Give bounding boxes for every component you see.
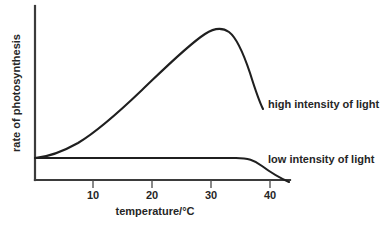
x-tick-label-40: 40 — [264, 189, 276, 201]
x-tick-label-30: 30 — [205, 189, 217, 201]
curve-low-intensity — [35, 158, 289, 182]
x-tick-label-20: 20 — [146, 189, 158, 201]
y-axis-title: rate of photosynthesis — [10, 34, 22, 152]
x-axis-title: temperature/°C — [116, 205, 195, 217]
x-tick-label-10: 10 — [87, 189, 99, 201]
photosynthesis-rate-chart: 10 20 30 40 temperature/°C rate of photo… — [0, 0, 391, 229]
series-label-low-intensity: low intensity of light — [268, 153, 375, 165]
chart-canvas: 10 20 30 40 temperature/°C rate of photo… — [0, 0, 391, 229]
curve-high-intensity — [35, 29, 263, 158]
series-label-high-intensity: high intensity of light — [268, 98, 380, 110]
